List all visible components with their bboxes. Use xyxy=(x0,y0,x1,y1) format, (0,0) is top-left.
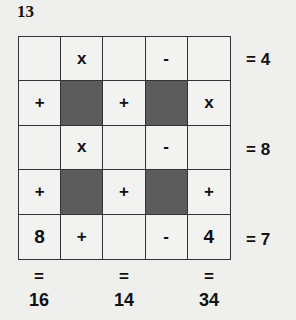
given-number-cell: 4 xyxy=(188,215,230,259)
operator-cell: + xyxy=(103,81,145,125)
operator-cell: - xyxy=(146,215,188,259)
empty-number-cell[interactable] xyxy=(19,37,61,81)
empty-number-cell[interactable] xyxy=(103,37,145,81)
col-1-value: 16 xyxy=(29,290,49,310)
operator-cell: - xyxy=(146,126,188,170)
blocked-cell xyxy=(146,81,188,125)
operator-cell: - xyxy=(146,37,188,81)
puzzle-grid: x-++xx-+++8+-4 xyxy=(18,36,231,260)
empty-number-cell[interactable] xyxy=(19,126,61,170)
row-5-result: = 7 xyxy=(246,230,270,250)
col-5-result: = 34 xyxy=(189,268,229,309)
empty-number-cell[interactable] xyxy=(103,126,145,170)
operator-cell: x xyxy=(61,126,103,170)
empty-number-cell[interactable] xyxy=(188,37,230,81)
blocked-cell xyxy=(61,170,103,214)
col-3-equals: = xyxy=(104,268,144,285)
operator-cell: + xyxy=(19,170,61,214)
operator-cell: x xyxy=(188,81,230,125)
blocked-cell xyxy=(61,81,103,125)
col-3-result: = 14 xyxy=(104,268,144,309)
empty-number-cell[interactable] xyxy=(103,215,145,259)
empty-number-cell[interactable] xyxy=(188,126,230,170)
blocked-cell xyxy=(146,170,188,214)
operator-cell: + xyxy=(61,215,103,259)
col-1-equals: = xyxy=(19,268,59,285)
row-1-result: = 4 xyxy=(246,50,270,70)
row-3-result: = 8 xyxy=(246,140,270,160)
operator-cell: + xyxy=(19,81,61,125)
col-3-value: 14 xyxy=(114,290,134,310)
operator-cell: + xyxy=(103,170,145,214)
col-5-equals: = xyxy=(189,268,229,285)
given-number-cell: 8 xyxy=(19,215,61,259)
operator-cell: + xyxy=(188,170,230,214)
operator-cell: x xyxy=(61,37,103,81)
puzzle-number: 13 xyxy=(17,2,34,22)
col-5-value: 34 xyxy=(199,290,219,310)
col-1-result: = 16 xyxy=(19,268,59,309)
